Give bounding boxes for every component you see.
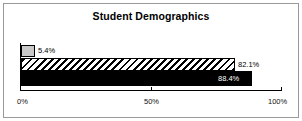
bar-series-1 (21, 45, 35, 57)
x-axis-tick-100 (281, 87, 282, 91)
bar-series-2 (21, 58, 235, 71)
x-axis-tick-label-50: 50% (144, 97, 159, 106)
chart-title: Student Demographics (0, 10, 302, 22)
bar-value-label-series-1: 5.4% (38, 46, 55, 55)
x-axis-tick-label-100: 100% (268, 97, 287, 106)
x-axis-tick-label-0: 0% (17, 97, 28, 106)
bar-value-label-series-2: 82.1% (238, 60, 259, 69)
x-axis-tick-0 (20, 87, 21, 91)
chart-container: Student Demographics 0% 50% 100% 5.4% 82… (0, 0, 302, 121)
x-axis-tick-50 (151, 87, 152, 91)
bar-value-label-series-3: 88.4% (218, 74, 239, 83)
